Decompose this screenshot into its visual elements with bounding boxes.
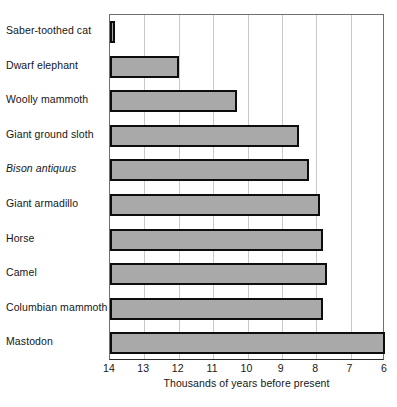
bar xyxy=(110,90,237,112)
x-tick-label: 10 xyxy=(240,362,252,374)
category-label: Mastodon xyxy=(0,336,99,347)
x-tick-label: 13 xyxy=(137,362,149,374)
bar xyxy=(110,159,309,181)
category-label-column: Saber-toothed catDwarf elephantWoolly ma… xyxy=(0,14,104,360)
x-axis-title: Thousands of years before present xyxy=(109,377,384,390)
x-tick-label: 11 xyxy=(206,362,217,374)
category-label: Woolly mammoth xyxy=(0,94,99,105)
bar xyxy=(110,229,323,251)
bar xyxy=(110,125,299,147)
x-tick-label: 12 xyxy=(172,362,184,374)
category-label: Horse xyxy=(0,233,99,244)
x-tick-label: 14 xyxy=(103,362,115,374)
bar xyxy=(110,194,320,216)
x-tick-label: 7 xyxy=(347,362,353,374)
category-label: Dwarf elephant xyxy=(0,60,99,71)
x-tick-label: 9 xyxy=(278,362,284,374)
category-label: Saber-toothed cat xyxy=(0,25,99,36)
category-label: Camel xyxy=(0,267,99,278)
gridline xyxy=(351,15,352,359)
bar xyxy=(110,298,323,320)
bar xyxy=(110,21,115,43)
bar xyxy=(110,56,179,78)
x-axis-tick-labels: 14131211109876 xyxy=(109,361,384,377)
category-label: Columbian mammoth xyxy=(0,302,99,313)
category-label: Giant ground sloth xyxy=(0,129,99,140)
category-label: Giant armadillo xyxy=(0,198,99,209)
category-label: Bison antiquus xyxy=(0,163,99,174)
x-tick-label: 8 xyxy=(312,362,318,374)
bar xyxy=(110,263,327,285)
x-tick-label: 6 xyxy=(381,362,387,374)
plot-area xyxy=(109,14,384,360)
bar xyxy=(110,332,385,354)
extinction-timeline-bar-chart: Saber-toothed catDwarf elephantWoolly ma… xyxy=(0,0,397,407)
